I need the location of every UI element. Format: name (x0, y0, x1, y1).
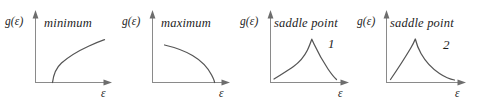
x-axis-arrow-icon (458, 80, 467, 86)
y-axis-arrow-icon (384, 10, 390, 19)
y-axis-label: g(ε) (240, 16, 258, 28)
y-axis-arrow-icon (268, 10, 274, 19)
x-axis-arrow-icon (341, 80, 350, 86)
x-axis-label: ε (455, 88, 460, 100)
x-axis-label: ε (338, 88, 343, 100)
curve-minimum (53, 40, 105, 83)
curve-maximum (165, 45, 215, 83)
x-axis-arrow-icon (104, 80, 113, 86)
panel-title-saddle-point-2: saddle point (390, 17, 454, 30)
panel-saddle-point-1: g(ε) ε saddle point 1 (236, 0, 355, 102)
x-axis-label: ε (219, 88, 224, 100)
y-axis-label: g(ε) (122, 16, 140, 28)
x-axis-label: ε (101, 88, 106, 100)
panel-index-label-1: 1 (328, 37, 335, 50)
panel-minimum: g(ε) ε minimum (0, 0, 118, 102)
figure-four-dos-shapes: g(ε) ε minimum g(ε) ε maximum (0, 0, 478, 102)
panel-title-maximum: maximum (161, 17, 211, 30)
panel-title-minimum: minimum (44, 17, 92, 30)
x-axis-arrow-icon (222, 80, 231, 86)
panel-title-saddle-point-1: saddle point (274, 17, 338, 30)
y-axis-label: g(ε) (357, 16, 375, 28)
y-axis-arrow-icon (33, 10, 39, 19)
panel-index-label-2: 2 (443, 38, 450, 51)
panel-saddle-point-2: g(ε) ε saddle point 2 (355, 0, 478, 102)
y-axis-label: g(ε) (5, 16, 23, 28)
y-axis-arrow-icon (150, 10, 156, 19)
panel-maximum: g(ε) ε maximum (118, 0, 236, 102)
